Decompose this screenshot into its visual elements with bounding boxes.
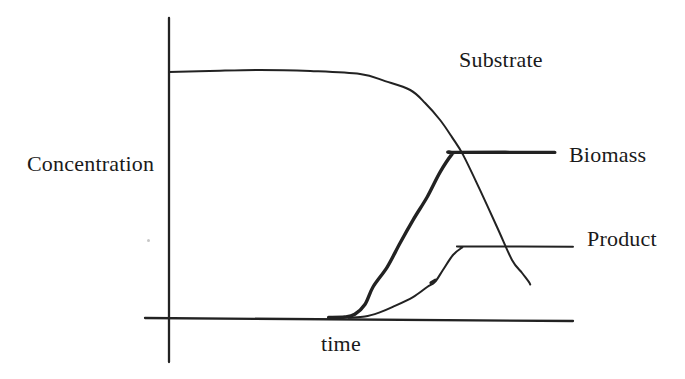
batch-growth-figure: Concentration time Substrate Biomass Pro…	[0, 0, 685, 379]
product-curve-label: Product	[587, 228, 657, 250]
x-axis-line	[145, 318, 573, 321]
substrate-curve-label: Substrate	[459, 49, 543, 71]
biomass-curve-label: Biomass	[569, 144, 646, 166]
chart-canvas	[0, 0, 685, 379]
x-axis-label: time	[321, 333, 361, 355]
scan-speck-artifact	[147, 239, 150, 242]
biomass-curve	[329, 152, 555, 317]
y-axis-label: Concentration	[27, 153, 154, 175]
substrate-curve	[169, 70, 530, 285]
product-curve	[349, 246, 573, 317]
